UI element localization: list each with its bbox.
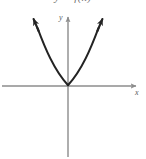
parabola-right-arrow-stem <box>97 19 102 31</box>
math-figure-parabola: y = f(x) y x <box>0 0 146 159</box>
y-axis-label: y <box>59 14 63 22</box>
x-axis-label: x <box>135 89 139 97</box>
axes-group <box>2 17 136 157</box>
parabola-left-arrow-stem <box>34 19 39 31</box>
parabola-plot <box>0 0 146 159</box>
